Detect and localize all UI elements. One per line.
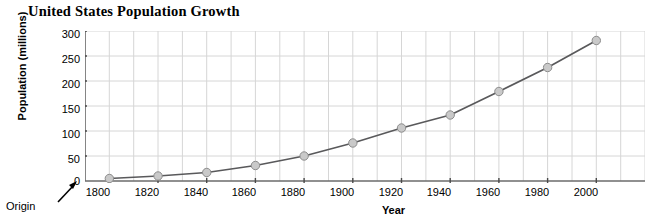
x-tick-label-1900: 1900 [319, 186, 365, 198]
data-point-1820 [154, 172, 162, 180]
data-point-1980 [543, 63, 551, 71]
plot-area [85, 31, 645, 181]
x-tick-label-1840: 1840 [173, 186, 219, 198]
data-point-1940 [446, 111, 454, 119]
y-tick-label-200: 200 [44, 79, 80, 90]
x-tick-label-1960: 1960 [465, 186, 511, 198]
y-tick-label-50: 50 [44, 154, 80, 165]
y-tick-label-300: 300 [44, 29, 80, 40]
chart-figure: United States Population Growth Populati… [0, 0, 657, 224]
data-point-1920 [397, 124, 405, 132]
origin-arrow-icon [56, 178, 82, 204]
x-tick-label-1940: 1940 [416, 186, 462, 198]
y-tick-label-250: 250 [44, 54, 80, 65]
data-point-1960 [495, 87, 503, 95]
chart-title: United States Population Growth [28, 3, 240, 20]
x-tick-label-1820: 1820 [124, 186, 170, 198]
y-axis-label: Population (millions) [16, 0, 28, 136]
data-point-1880 [300, 152, 308, 160]
chart-canvas [85, 31, 645, 183]
y-tick-label-100: 100 [44, 129, 80, 140]
x-tick-label-1860: 1860 [221, 186, 267, 198]
x-axis-label: Year [0, 204, 657, 216]
x-tick-label-1880: 1880 [270, 186, 316, 198]
x-tick-label-2000: 2000 [563, 186, 609, 198]
data-point-2000 [592, 36, 600, 44]
data-point-1840 [203, 168, 211, 176]
horizontal-gridlines [85, 31, 645, 156]
data-point-1900 [349, 139, 357, 147]
x-tick-label-1980: 1980 [514, 186, 560, 198]
data-point-1800 [105, 174, 113, 182]
data-point-1860 [251, 161, 259, 169]
y-tick-label-150: 150 [44, 104, 80, 115]
x-tick-label-1920: 1920 [368, 186, 414, 198]
origin-annotation-label: Origin [6, 200, 35, 212]
